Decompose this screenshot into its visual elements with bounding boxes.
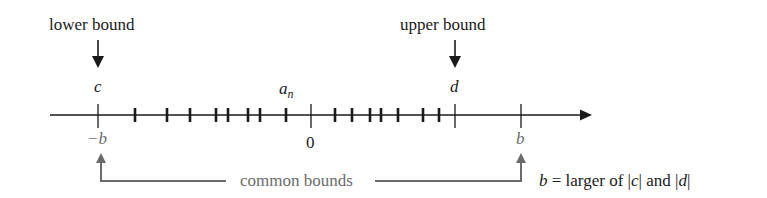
a-n-subscript: n [288, 87, 294, 101]
definition-text-1: = larger of | [548, 171, 631, 190]
major-ticks [98, 104, 521, 128]
a-n-label: an [279, 80, 294, 100]
common-bounds-left-arrow-icon [96, 153, 106, 163]
definition-d: d [678, 171, 687, 190]
definition-text-2: | and | [639, 171, 679, 190]
a-n-base: a [279, 79, 288, 98]
common-bounds-caption: common bounds [240, 172, 353, 189]
zero-label: 0 [306, 134, 315, 151]
definition-text-3: | [687, 171, 690, 190]
upper-bound-arrow-icon [449, 56, 461, 68]
lower-bound-label: lower bound [49, 16, 134, 33]
upper-bound-label: upper bound [400, 16, 485, 33]
c-label: c [94, 78, 102, 95]
definition-c: c [631, 171, 639, 190]
common-bounds-left-bracket [101, 161, 226, 181]
axis-arrowhead-icon [580, 110, 592, 121]
lower-bound-arrow-icon [92, 56, 104, 68]
definition-b: b [539, 171, 548, 190]
d-label: d [450, 78, 459, 95]
common-bounds-right-arrow-icon [516, 153, 526, 163]
b-definition: b = larger of |c| and |d| [539, 172, 690, 189]
neg-b-label: −b [87, 130, 107, 147]
common-bounds-right-bracket [375, 161, 521, 181]
b-label: b [516, 130, 525, 147]
